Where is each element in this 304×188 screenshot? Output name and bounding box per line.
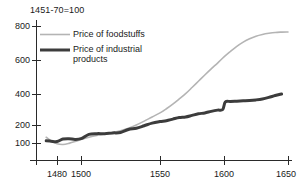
data-series-layer bbox=[46, 32, 288, 145]
series-line-industrial-products bbox=[46, 94, 281, 142]
legend-swatches bbox=[40, 35, 70, 51]
chart-canvas bbox=[0, 0, 304, 188]
price-index-chart: 1451-70=100 800 600 400 200 100 1480 150… bbox=[0, 0, 304, 188]
series-line-foodstuffs bbox=[46, 32, 288, 145]
